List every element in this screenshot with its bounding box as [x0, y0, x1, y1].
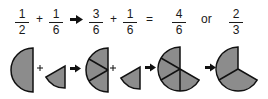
- numerator: 4: [172, 8, 186, 20]
- arrow-right-icon: [205, 64, 216, 72]
- fraction-addition-diagram: 1 2 + 1 6: [0, 0, 268, 99]
- numerator: 1: [123, 8, 137, 20]
- one-sixth-wedge-shape: [121, 67, 140, 89]
- denominator: 6: [123, 24, 137, 36]
- denominator: 3: [229, 24, 243, 36]
- two-thirds-shape: [216, 47, 257, 91]
- arrow-right-icon: [70, 65, 81, 73]
- fraction-one-sixth: 1 6: [123, 8, 137, 36]
- plus-sign: +: [110, 13, 117, 25]
- denominator: 6: [89, 24, 103, 36]
- numerator: 2: [229, 8, 243, 20]
- one-sixth-wedge-shape: [46, 66, 65, 88]
- arrow-right-icon: [145, 64, 156, 72]
- half-circle-shape: [11, 48, 33, 92]
- fraction-two-thirds: 2 3: [229, 8, 243, 36]
- three-sixths-shape: [86, 48, 108, 92]
- fraction-three-sixths: 3 6: [89, 8, 103, 36]
- arrow-right-icon: [70, 15, 83, 24]
- numerator: 3: [89, 8, 103, 20]
- or-word: or: [201, 13, 212, 25]
- plus-icon: [37, 65, 43, 71]
- denominator: 6: [172, 24, 186, 36]
- four-sixths-shape: [158, 47, 199, 91]
- plus-icon: [110, 65, 116, 71]
- equals-sign: =: [146, 13, 153, 25]
- fraction-four-sixths: 4 6: [172, 8, 186, 36]
